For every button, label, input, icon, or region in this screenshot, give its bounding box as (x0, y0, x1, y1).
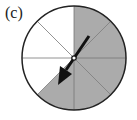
spinner (0, 0, 137, 120)
spinner-pivot (72, 56, 76, 60)
